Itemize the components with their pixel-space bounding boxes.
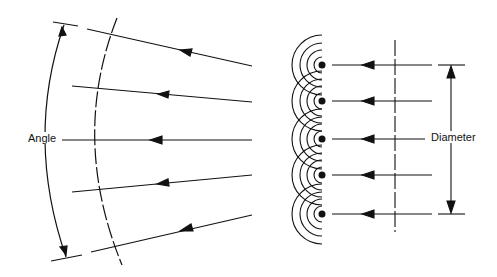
ray-1 bbox=[87, 29, 252, 66]
parallel-ray-1-arrow-icon bbox=[362, 61, 374, 69]
curved-wavefront bbox=[95, 18, 122, 265]
angle-arc-arrow-bottom bbox=[60, 246, 67, 255]
parallel-ray-2-arrow-icon bbox=[362, 97, 374, 105]
diagram-canvas: Angle Diameter bbox=[0, 0, 497, 277]
ray-3-arrow-icon bbox=[150, 136, 162, 144]
diameter-label: Diameter bbox=[429, 131, 478, 143]
parallel-ray-4-arrow-icon bbox=[362, 171, 374, 179]
angle-arc-arrow-top bbox=[59, 27, 66, 36]
left-panel bbox=[45, 18, 252, 265]
angle-top-tick bbox=[53, 22, 78, 26]
angle-label: Angle bbox=[26, 132, 58, 144]
diameter-arrow-top bbox=[447, 66, 455, 78]
parallel-ray-5-arrow-icon bbox=[362, 210, 374, 218]
ray-1-arrow-icon bbox=[180, 49, 192, 56]
ray-5-arrow-icon bbox=[180, 224, 193, 231]
diagram-svg bbox=[0, 0, 497, 277]
ray-4-arrow-icon bbox=[157, 179, 169, 186]
diameter-arrow-bottom bbox=[447, 201, 455, 213]
ray-2-arrow-icon bbox=[158, 91, 169, 98]
parallel-ray-3-arrow-icon bbox=[362, 135, 374, 143]
ray-5 bbox=[91, 215, 252, 252]
